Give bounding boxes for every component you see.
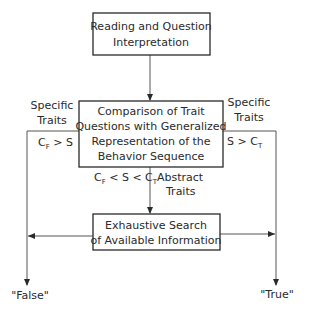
edge-left-branch: [27, 131, 79, 285]
arrowhead-comparison: [147, 94, 153, 101]
node-comparison-line-2: Questions with Generalized: [75, 120, 226, 133]
right-branch-condition: S > CT: [227, 135, 263, 150]
node-reading-line-2: Interpretation: [113, 36, 189, 49]
left-branch-condition: CF > S: [38, 136, 73, 151]
down-branch-label-2: Traits: [165, 185, 196, 198]
right-branch-label-1: Specific: [228, 96, 271, 109]
node-search-line-2: of Available Information: [90, 234, 221, 247]
node-comparison-line-4: Behavior Sequence: [98, 150, 205, 163]
outcome-false: "False": [11, 289, 49, 302]
arrowhead-search-right: [268, 231, 275, 237]
arrowhead-true: [273, 279, 279, 286]
down-branch-label-1: Abstract: [157, 171, 204, 184]
arrowhead-search-left: [28, 233, 35, 239]
arrowhead-false: [24, 279, 30, 286]
node-comparison-line-1: Comparison of Trait: [97, 105, 205, 118]
outcome-true: "True": [260, 288, 293, 301]
node-reading-line-1: Reading and Question: [90, 20, 212, 33]
node-search-line-1: Exhaustive Search: [105, 219, 207, 232]
edge-right-branch: [223, 131, 276, 285]
left-branch-label-2: Traits: [36, 114, 67, 127]
flow-diagram: Reading and Question Interpretation Comp…: [0, 0, 309, 315]
down-branch-condition: CF < S < CT: [94, 171, 158, 186]
arrowhead-search: [147, 207, 153, 214]
right-branch-label-2: Traits: [233, 111, 264, 124]
left-branch-label-1: Specific: [31, 99, 74, 112]
node-comparison-line-3: Representation of the: [91, 135, 210, 148]
